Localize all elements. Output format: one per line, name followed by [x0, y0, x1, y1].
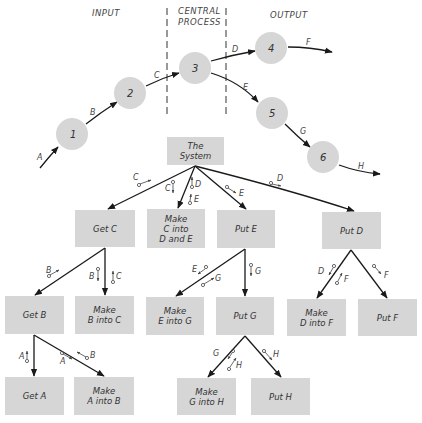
module-label: Put G — [233, 311, 256, 321]
module-label: Make — [300, 308, 333, 318]
flow-node-6: 6 — [307, 141, 339, 173]
flow-label-c: C — [154, 71, 160, 80]
svg-text:D: D — [318, 267, 324, 276]
module-label: Get B — [23, 310, 47, 320]
flow-label-e: E — [243, 83, 249, 92]
module-label: System — [180, 151, 212, 161]
flow-label-b: B — [90, 108, 96, 117]
flow-edge-f — [288, 47, 332, 52]
module-get-b: Get B — [5, 296, 64, 334]
module-label: Put F — [377, 313, 398, 323]
svg-text:A: A — [59, 357, 65, 366]
flow-node-3: 3 — [179, 52, 211, 84]
module-get-a: Get A — [5, 377, 64, 415]
module-label: Put E — [235, 224, 257, 234]
module-the-system: The System — [167, 137, 224, 165]
svg-text:G: G — [213, 349, 219, 358]
module-make-g-into-h: Make G into H — [177, 378, 236, 415]
module-make-e-into-g: Make E into G — [146, 297, 204, 335]
module-put-d: Put D — [322, 212, 381, 249]
couple-sys-pute: E — [225, 185, 245, 198]
module-label: G into H — [189, 397, 224, 407]
flow-edge-c — [146, 73, 179, 86]
header-central-2: PROCESS — [178, 17, 221, 27]
module-label: Make — [159, 214, 192, 224]
flow-label-d: D — [232, 45, 238, 54]
module-label: Put D — [340, 226, 363, 236]
flow-node-5: 5 — [256, 97, 288, 129]
flow-edge-g — [285, 124, 310, 147]
module-label: C into — [159, 224, 192, 234]
link-system-getc — [108, 166, 195, 209]
module-put-h: Put H — [251, 378, 310, 415]
module-label: Get C — [93, 224, 117, 234]
svg-text:F: F — [384, 271, 389, 280]
couple-pute-putg: G — [249, 263, 261, 276]
module-label: E into G — [158, 316, 192, 326]
svg-text:E: E — [239, 189, 245, 198]
couple-getc-getb: B — [46, 266, 59, 278]
module-label: D into F — [300, 318, 333, 328]
svg-text:G: G — [215, 274, 221, 283]
svg-text:F: F — [344, 275, 349, 284]
svg-text:2: 2 — [127, 88, 133, 99]
couple-sys-putd: D — [269, 174, 283, 186]
svg-text:1: 1 — [70, 129, 76, 140]
flow-edge-a — [40, 147, 58, 168]
couple-sys-makec: C D E — [165, 177, 201, 205]
module-make-b-into-c: Make B into C — [75, 296, 134, 334]
svg-text:C: C — [165, 184, 171, 193]
module-label: The — [180, 141, 212, 151]
link-system-putd — [195, 166, 354, 211]
header-central-1: CENTRAL — [178, 6, 221, 16]
svg-text:D: D — [195, 180, 201, 189]
svg-text:B: B — [89, 272, 95, 281]
couple-sys-getc: C — [133, 173, 151, 187]
svg-text:A: A — [18, 352, 24, 361]
module-make-d-into-f: Make D into F — [287, 299, 346, 336]
module-label: Make — [158, 306, 192, 316]
module-label: Make — [87, 386, 120, 396]
svg-text:D: D — [277, 174, 283, 183]
flow-label-g: G — [300, 127, 306, 136]
module-make-c-into-d-and-e: Make C into D and E — [147, 209, 205, 248]
svg-text:H: H — [273, 350, 279, 359]
svg-text:C: C — [116, 272, 122, 281]
svg-text:E: E — [192, 265, 198, 274]
couple-getb-geta: A — [18, 351, 29, 363]
flow-node-2: 2 — [114, 77, 146, 109]
flow-node-4: 4 — [255, 32, 287, 64]
link-putd-putf — [351, 250, 387, 298]
module-label: Make — [88, 305, 121, 315]
svg-text:3: 3 — [192, 63, 198, 74]
module-label: Get A — [23, 391, 47, 401]
module-put-g: Put G — [216, 297, 274, 335]
module-label: A into B — [87, 396, 120, 406]
svg-text:C: C — [133, 173, 139, 182]
module-put-e: Put E — [217, 210, 275, 248]
flow-node-1: 1 — [56, 118, 88, 150]
link-pute-makee — [176, 249, 245, 296]
svg-text:E: E — [194, 195, 200, 204]
flow-label-h: H — [358, 162, 364, 171]
module-label: B into C — [88, 315, 121, 325]
svg-text:H: H — [236, 361, 242, 370]
module-get-c: Get C — [75, 210, 135, 247]
svg-text:6: 6 — [320, 152, 326, 163]
flow-label-f: F — [306, 38, 311, 47]
svg-text:B: B — [46, 266, 52, 275]
svg-text:B: B — [90, 351, 96, 360]
module-label: D and E — [159, 234, 192, 244]
module-label: Make — [189, 387, 224, 397]
module-put-f: Put F — [358, 299, 417, 336]
flow-label-a: A — [36, 153, 42, 162]
svg-text:5: 5 — [269, 108, 275, 119]
module-make-a-into-b: Make A into B — [74, 377, 134, 415]
header-output: OUTPUT — [270, 10, 308, 20]
svg-text:4: 4 — [268, 43, 274, 54]
svg-text:G: G — [255, 267, 261, 276]
header-input: INPUT — [92, 8, 120, 18]
module-label: Put H — [269, 392, 292, 402]
flow-edge-e — [211, 73, 258, 102]
couple-putd-putf: F — [372, 264, 389, 280]
